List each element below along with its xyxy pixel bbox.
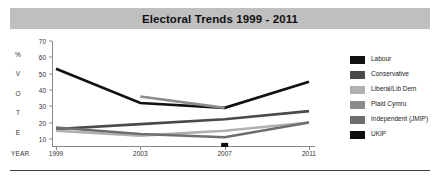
bottom-divider xyxy=(10,170,430,171)
x-tick-2007: 2007 xyxy=(217,150,231,157)
y-axis-letter-3: T xyxy=(16,110,20,117)
y-tick-40: 40 xyxy=(39,86,46,93)
legend-item-conservative[interactable]: Conservative xyxy=(350,67,438,82)
y-axis-letter-2: O xyxy=(15,91,20,98)
y-axis-caption: %VOTE xyxy=(11,52,25,136)
legend-swatch-icon xyxy=(350,86,365,94)
line-independent-jmip xyxy=(56,123,309,138)
legend-swatch-icon xyxy=(350,71,365,79)
legend-swatch-icon xyxy=(350,116,365,124)
legend-swatch-icon xyxy=(350,101,365,109)
y-axis-tick-labels: 10203040506070 xyxy=(30,40,46,140)
legend-label: Plaid Cymru xyxy=(371,101,406,108)
chart-screenshot: Electoral Trends 1999 - 2011 %VOTE 10203… xyxy=(0,0,440,179)
legend-item-independent-jmip[interactable]: Independent (JMIP) xyxy=(350,112,438,127)
legend-swatch-icon xyxy=(350,56,365,64)
y-tick-60: 60 xyxy=(39,54,46,61)
x-axis-title: YEAR xyxy=(11,150,30,157)
legend-label: Labour xyxy=(371,56,391,63)
y-tick-20: 20 xyxy=(39,119,46,126)
chart-title-bar: Electoral Trends 1999 - 2011 xyxy=(10,8,430,29)
y-tick-30: 30 xyxy=(39,103,46,110)
x-tick-2011: 2011 xyxy=(302,150,316,157)
series-lines xyxy=(52,41,315,147)
legend-item-ukip[interactable]: UKIP xyxy=(350,127,438,142)
y-tick-50: 50 xyxy=(39,70,46,77)
y-tick-10: 10 xyxy=(39,135,46,142)
legend-swatch-icon xyxy=(350,131,365,139)
x-tick-1999: 1999 xyxy=(49,150,63,157)
marker-ukip xyxy=(221,143,228,147)
legend-label: Independent (JMIP) xyxy=(371,116,428,123)
plot-area xyxy=(52,41,315,147)
page-title: Electoral Trends 1999 - 2011 xyxy=(142,13,298,25)
y-axis-letter-4: E xyxy=(16,130,20,137)
y-axis-letter-1: V xyxy=(16,71,20,78)
y-tick-70: 70 xyxy=(39,38,46,45)
legend-item-plaid-cymru[interactable]: Plaid Cymru xyxy=(350,97,438,112)
chart-legend: LabourConservativeLiberal/Lib DemPlaid C… xyxy=(350,52,438,142)
legend-item-liberal-lib-dem[interactable]: Liberal/Lib Dem xyxy=(350,82,438,97)
legend-label: Liberal/Lib Dem xyxy=(371,86,417,93)
legend-item-labour[interactable]: Labour xyxy=(350,52,438,67)
legend-label: UKIP xyxy=(371,131,386,138)
x-axis-tick-labels: 1999200320072011 xyxy=(52,150,332,162)
legend-label: Conservative xyxy=(371,71,409,78)
y-axis-letter-0: % xyxy=(15,52,21,59)
x-tick-2003: 2003 xyxy=(133,150,147,157)
